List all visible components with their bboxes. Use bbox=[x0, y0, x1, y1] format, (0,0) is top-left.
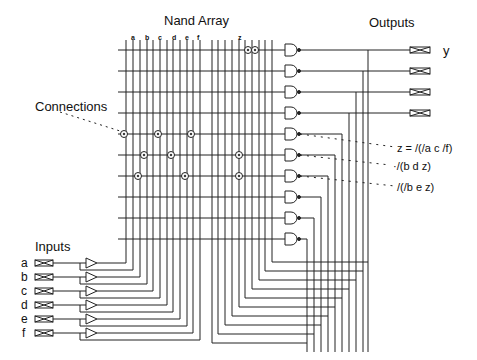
equation-2: ·/(b d z) bbox=[393, 161, 431, 172]
column-label-a: a bbox=[131, 34, 135, 41]
outputs-label: Outputs bbox=[369, 16, 415, 29]
nand-gate-icon bbox=[285, 233, 297, 245]
input-label-b: b bbox=[21, 271, 28, 283]
column-label-e: e bbox=[185, 34, 189, 41]
column-label-f: f bbox=[197, 34, 199, 41]
equation-z: z = /(/a c /f) bbox=[397, 143, 452, 154]
input-label-d: d bbox=[21, 299, 28, 311]
column-label-c: c bbox=[158, 34, 162, 41]
column-label-b: b bbox=[145, 34, 149, 41]
buffer-icon bbox=[86, 272, 97, 282]
nand-gate-icon bbox=[285, 170, 297, 182]
nand-gate-icon bbox=[285, 212, 297, 224]
input-label-e: e bbox=[21, 313, 28, 325]
input-label-c: c bbox=[21, 285, 27, 297]
buffer-icon bbox=[86, 300, 97, 310]
equation-3: /(/b e z) bbox=[397, 182, 434, 193]
nand-gate-icon bbox=[285, 149, 297, 161]
column-label-z: z bbox=[238, 34, 242, 41]
nand-gate-icon bbox=[285, 86, 297, 98]
pla-diagram: Nand Array Outputs Connections Inputs a … bbox=[0, 0, 477, 360]
nand-gate-icon bbox=[285, 65, 297, 77]
buffer-icon bbox=[86, 328, 97, 338]
nand-array-title: Nand Array bbox=[164, 14, 229, 27]
nand-gate-icon bbox=[285, 44, 297, 56]
buffer-icon bbox=[86, 314, 97, 324]
connections-label: Connections bbox=[35, 100, 107, 113]
nand-gate-icon bbox=[285, 128, 297, 140]
nand-gate-icon bbox=[285, 191, 297, 203]
inputs-label: Inputs bbox=[35, 240, 70, 253]
buffer-icon bbox=[86, 258, 97, 268]
column-label-d: d bbox=[172, 34, 176, 41]
buffer-icon bbox=[86, 286, 97, 296]
output-label-y: y bbox=[443, 44, 450, 57]
nand-gate-icon bbox=[285, 107, 297, 119]
circuit-wiring bbox=[0, 0, 477, 360]
input-label-a: a bbox=[21, 257, 28, 269]
input-label-f: f bbox=[22, 327, 25, 339]
